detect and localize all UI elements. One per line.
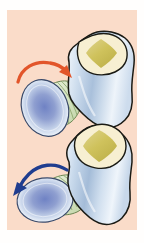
rotation-arrow-clockwise (18, 62, 72, 82)
anatomy-artwork (7, 10, 137, 230)
bottom-scene (13, 124, 132, 225)
illustration-panel (7, 10, 137, 230)
top-scene (13, 31, 134, 143)
illustration-figure: Vertebral rotation with intervertebral d… (0, 0, 144, 243)
